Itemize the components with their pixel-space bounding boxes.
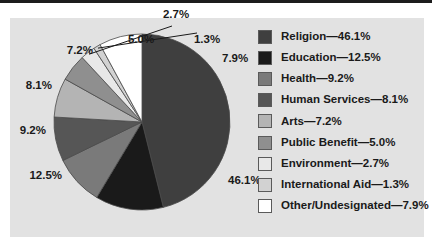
slice-label-international-aid: 1.3%: [194, 33, 220, 45]
legend-swatch: [258, 114, 272, 128]
slice-label-arts: 7.2%: [67, 44, 93, 56]
slice-label-human-services: 8.1%: [26, 79, 52, 91]
legend-item[interactable]: International Aid—1.3%: [258, 174, 428, 195]
legend-swatch: [258, 199, 272, 213]
legend-swatch: [258, 178, 272, 192]
pie-slice-group: [54, 34, 230, 210]
slice-label-other: 7.9%: [222, 52, 248, 64]
legend-item[interactable]: Religion—46.1%: [258, 26, 428, 47]
legend-item-label: Education—12.5%: [281, 52, 381, 64]
legend-item-label: Health—9.2%: [281, 73, 354, 85]
legend-item-label: Environment—2.7%: [281, 158, 389, 170]
legend-item[interactable]: Education—12.5%: [258, 47, 428, 68]
legend-item[interactable]: Public Benefit—5.0%: [258, 132, 428, 153]
slice-label-environment: 2.7%: [163, 8, 189, 20]
slice-label-religion: 46.1%: [228, 174, 261, 186]
legend-item[interactable]: Health—9.2%: [258, 68, 428, 89]
legend-swatch: [258, 136, 272, 150]
slice-label-health: 9.2%: [20, 124, 46, 136]
legend-item-label: Other/Undesignated—7.9%: [281, 200, 429, 212]
legend-swatch: [258, 30, 272, 44]
legend-swatch: [258, 51, 272, 65]
slice-label-education: 12.5%: [29, 169, 62, 181]
slice-label-public-benefit: 5.0%: [128, 33, 154, 45]
legend-item[interactable]: Human Services—8.1%: [258, 90, 428, 111]
legend-item-label: Public Benefit—5.0%: [281, 137, 395, 149]
legend-item-label: Religion—46.1%: [281, 31, 370, 43]
legend-swatch: [258, 157, 272, 171]
legend-swatch: [258, 93, 272, 107]
legend-item[interactable]: Environment—2.7%: [258, 153, 428, 174]
legend-swatch: [258, 72, 272, 86]
legend-item-label: Arts—7.2%: [281, 116, 342, 128]
legend-item[interactable]: Arts—7.2%: [258, 111, 428, 132]
legend-item-label: Human Services—8.1%: [281, 94, 408, 106]
chart-legend: Religion—46.1%Education—12.5%Health—9.2%…: [258, 26, 428, 217]
legend-item-label: International Aid—1.3%: [281, 179, 409, 191]
legend-item[interactable]: Other/Undesignated—7.9%: [258, 196, 428, 217]
